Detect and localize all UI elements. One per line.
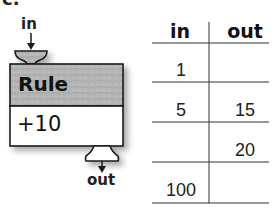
table-cell-out: 15	[215, 100, 275, 121]
output-label: out	[87, 171, 115, 189]
table-cell-out: 20	[215, 140, 275, 161]
input-funnel	[15, 51, 47, 64]
table-cell-in: 1	[151, 60, 211, 81]
table-cell-in: 100	[151, 180, 211, 201]
table-cell-in: 5	[151, 100, 211, 121]
input-arrow-head	[27, 43, 35, 50]
output-funnel	[86, 146, 119, 161]
input-label: in	[21, 15, 37, 33]
rule-title: Rule	[18, 72, 68, 96]
table-header-in: in	[150, 20, 210, 42]
rule-operation: +10	[17, 112, 61, 136]
table-header-out: out	[215, 20, 275, 42]
